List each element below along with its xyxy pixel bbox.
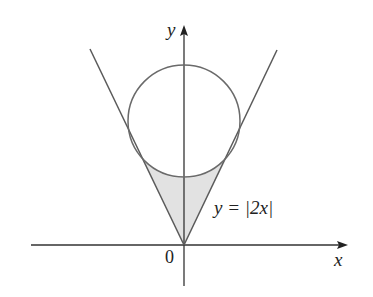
left-line-y-neg-2x xyxy=(90,49,184,245)
x-axis-label: x xyxy=(334,250,342,269)
origin-label: 0 xyxy=(165,248,174,266)
y-axis-label: y xyxy=(167,20,175,39)
diagram-canvas xyxy=(0,0,373,297)
curve-equation-label: y = |2x| xyxy=(214,198,273,217)
